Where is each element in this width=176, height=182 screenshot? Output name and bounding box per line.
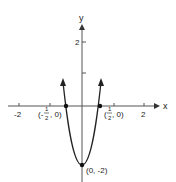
parabola-graph: x y -2 2 2 (- 1 2 , 0) ( 1 2 , 0) (0, -2… bbox=[0, 0, 176, 182]
x-axis-label: x bbox=[163, 101, 168, 111]
svg-text:, 0): , 0) bbox=[50, 110, 62, 119]
curve-left-arrow-icon bbox=[60, 78, 66, 86]
svg-text:(-: (- bbox=[38, 110, 44, 119]
x-tick-label-pos2: 2 bbox=[141, 110, 146, 119]
label-left-root: (- 1 2 , 0) bbox=[38, 106, 62, 121]
label-vertex: (0, -2) bbox=[86, 166, 108, 175]
x-tick-label-neg2: -2 bbox=[14, 110, 22, 119]
y-axis-arrow-icon bbox=[79, 24, 85, 30]
point-right-root bbox=[98, 104, 102, 108]
point-left-root bbox=[64, 104, 68, 108]
label-right-root: ( 1 2 , 0) bbox=[104, 106, 124, 121]
point-vertex bbox=[80, 163, 84, 167]
x-axis-arrow-icon bbox=[154, 103, 160, 109]
svg-text:, 0): , 0) bbox=[112, 110, 124, 119]
svg-text:1: 1 bbox=[45, 106, 49, 112]
y-tick-label-2: 2 bbox=[75, 38, 80, 47]
y-axis-label: y bbox=[79, 13, 84, 23]
svg-text:(: ( bbox=[104, 110, 107, 119]
svg-text:2: 2 bbox=[45, 115, 49, 121]
curve-right-arrow-icon bbox=[98, 78, 104, 86]
